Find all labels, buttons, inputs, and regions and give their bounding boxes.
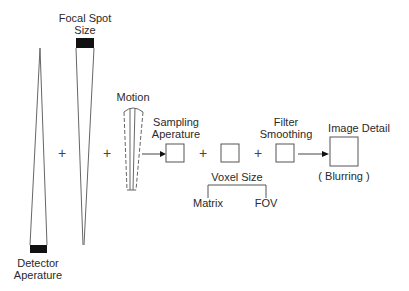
voxel-size-label: Voxel Size bbox=[211, 171, 262, 183]
detector-aperture-beam bbox=[30, 48, 47, 253]
motion-label: Motion bbox=[116, 91, 149, 103]
filter-smoothing-label: Filter bbox=[274, 116, 299, 128]
blurring-factors-diagram: + + + + Focal Spot Size Detector Aperatu… bbox=[0, 0, 409, 291]
voxel-size-box bbox=[221, 144, 239, 162]
focal-spot-label: Size bbox=[74, 24, 95, 36]
image-detail-label: Image Detail bbox=[328, 122, 390, 134]
filter-smoothing-label: Smoothing bbox=[260, 128, 313, 140]
detector-aperture-block bbox=[30, 245, 47, 253]
fov-label: FOV bbox=[255, 197, 278, 209]
detector-aperture-label: Aperature bbox=[14, 269, 62, 281]
arrow-to-sampling bbox=[142, 151, 166, 157]
blurring-label: ( Blurring ) bbox=[318, 170, 369, 182]
sampling-aperture-box bbox=[166, 144, 184, 162]
image-detail-box bbox=[330, 137, 358, 166]
sampling-aperture-label: Sampling bbox=[153, 116, 199, 128]
arrow-to-image-detail bbox=[298, 151, 329, 157]
detector-aperture-label: Detector bbox=[17, 257, 59, 269]
focal-spot-block bbox=[76, 38, 94, 48]
plus-operator: + bbox=[58, 145, 66, 161]
focal-spot-beam bbox=[76, 38, 94, 245]
motion-shape bbox=[124, 108, 143, 190]
focal-spot-label: Focal Spot bbox=[59, 12, 112, 24]
plus-operator: + bbox=[199, 145, 207, 161]
plus-operator: + bbox=[254, 145, 262, 161]
matrix-label: Matrix bbox=[193, 197, 223, 209]
sampling-aperture-label: Aperature bbox=[152, 128, 200, 140]
plus-operator: + bbox=[103, 145, 111, 161]
filter-smoothing-box bbox=[276, 144, 294, 162]
